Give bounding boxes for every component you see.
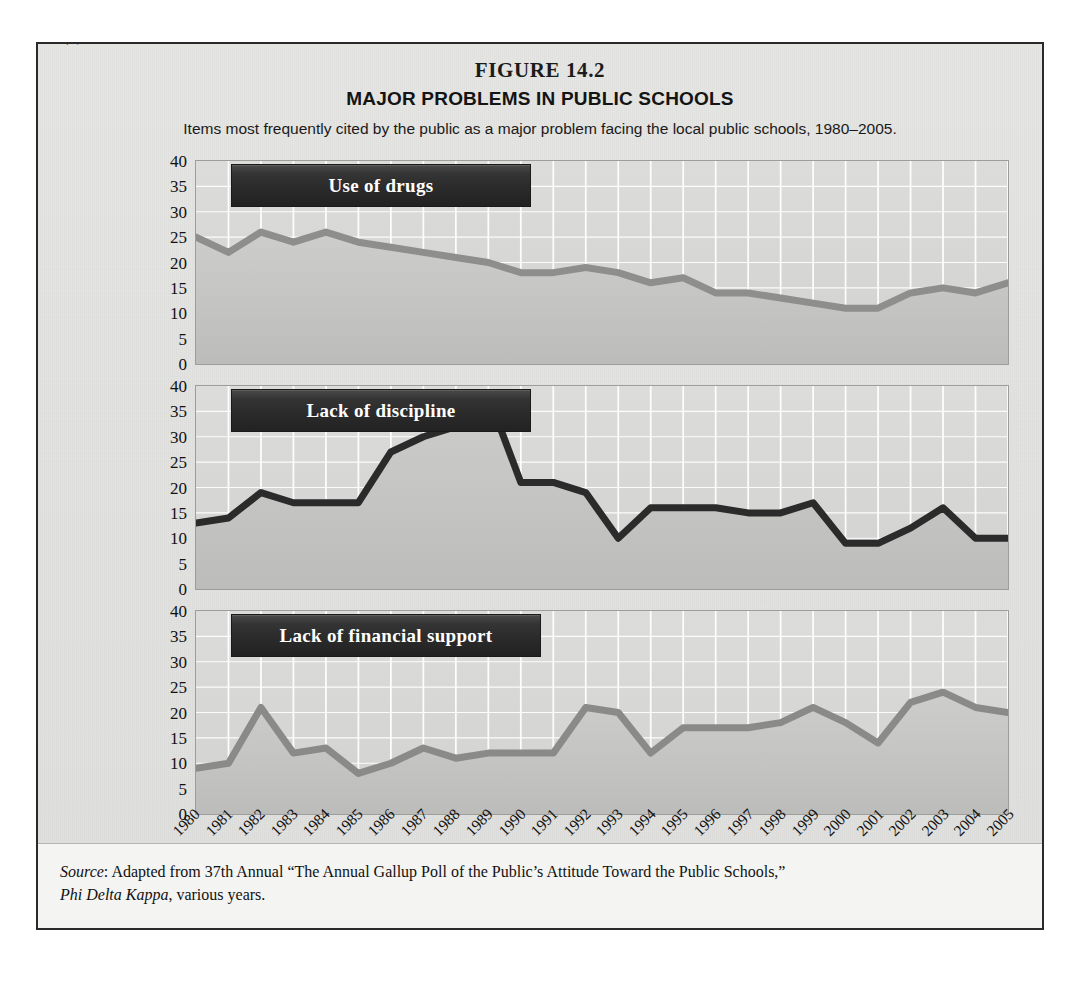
y-tick-label: 25 (170, 454, 187, 471)
y-tick-labels-panel-1: 4035302520151050 (157, 385, 187, 590)
source-line-2-text: , various years. (168, 886, 265, 903)
y-tick-label: 5 (179, 555, 188, 572)
y-tick-label: 30 (170, 653, 187, 670)
y-tick-label: 25 (170, 679, 187, 696)
panel-lack-of-financial-support: 4035302520151050 Lack of financial suppo… (157, 610, 1009, 815)
y-tick-label: 0 (179, 356, 188, 373)
y-tick-labels-panel-0: 4035302520151050 (157, 160, 187, 365)
source-line-1-text: : Adapted from 37th Annual “The Annual G… (104, 863, 786, 880)
series-area (196, 232, 1008, 364)
y-tick-label: 20 (170, 704, 187, 721)
series-label-lack-of-financial-support: Lack of financial support (231, 614, 541, 657)
y-tick-label: 20 (170, 254, 187, 271)
y-tick-label: 5 (179, 780, 188, 797)
y-tick-label: 30 (170, 203, 187, 220)
y-tick-label: 15 (170, 729, 187, 746)
y-tick-label: 40 (170, 603, 187, 620)
y-tick-label: 10 (170, 305, 187, 322)
y-tick-label: 40 (170, 153, 187, 170)
y-tick-label: 5 (179, 330, 188, 347)
y-tick-label: 15 (170, 279, 187, 296)
y-tick-labels-panel-2: 4035302520151050 (157, 610, 187, 815)
y-tick-label: 40 (170, 378, 187, 395)
y-tick-label: 35 (170, 628, 187, 645)
y-tick-label: 35 (170, 403, 187, 420)
y-tick-label: 35 (170, 178, 187, 195)
source-line-2: Phi Delta Kappa, various years. (60, 883, 1020, 906)
series-label-lack-of-discipline: Lack of discipline (231, 389, 531, 432)
figure-frame: FIGURE 14.2 MAJOR PROBLEMS IN PUBLIC SCH… (36, 42, 1044, 930)
panel-use-of-drugs: 4035302520151050 Use of drugs (157, 160, 1009, 365)
y-tick-label: 25 (170, 229, 187, 246)
figure-title: MAJOR PROBLEMS IN PUBLIC SCHOOLS (38, 88, 1042, 110)
y-axis-title: Percentage Citing Problems of Public Sch… (60, 42, 86, 180)
source-note: Source: Adapted from 37th Annual “The An… (38, 843, 1042, 928)
y-tick-label: 15 (170, 504, 187, 521)
y-tick-label: 10 (170, 530, 187, 547)
source-label: Source (60, 863, 104, 880)
y-tick-label: 0 (179, 581, 188, 598)
source-line-1: Source: Adapted from 37th Annual “The An… (60, 860, 1020, 883)
y-tick-label: 20 (170, 479, 187, 496)
figure-subtitle: Items most frequently cited by the publi… (38, 120, 1042, 138)
panel-lack-of-discipline: 4035302520151050 Lack of discipline (157, 385, 1009, 590)
y-tick-label: 30 (170, 428, 187, 445)
series-label-use-of-drugs: Use of drugs (231, 164, 531, 207)
source-publication: Phi Delta Kappa (60, 886, 168, 903)
y-tick-label: 10 (170, 755, 187, 772)
figure-number: FIGURE 14.2 (38, 58, 1042, 83)
